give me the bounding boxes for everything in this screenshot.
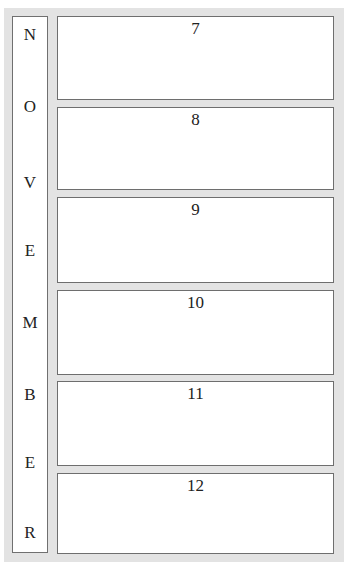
day-number: 9	[58, 200, 333, 220]
month-label-column: N O V E M B E R	[12, 16, 48, 553]
day-box-5[interactable]: 11	[57, 381, 334, 466]
month-letter: M	[13, 314, 47, 332]
day-number: 11	[58, 384, 333, 404]
day-box-4[interactable]: 10	[57, 290, 334, 375]
day-box-6[interactable]: 12	[57, 473, 334, 554]
day-box-2[interactable]: 8	[57, 107, 334, 190]
month-letter: O	[13, 98, 47, 116]
day-box-1[interactable]: 7	[57, 16, 334, 100]
day-number: 8	[58, 110, 333, 130]
month-letter: B	[13, 386, 47, 404]
day-number: 12	[58, 476, 333, 496]
month-letter: R	[13, 524, 47, 542]
day-number: 10	[58, 293, 333, 313]
month-letter: V	[13, 174, 47, 192]
day-box-3[interactable]: 9	[57, 197, 334, 283]
month-letter: E	[13, 454, 47, 472]
day-number: 7	[58, 19, 333, 39]
month-letter: E	[13, 242, 47, 260]
month-letter: N	[13, 26, 47, 44]
